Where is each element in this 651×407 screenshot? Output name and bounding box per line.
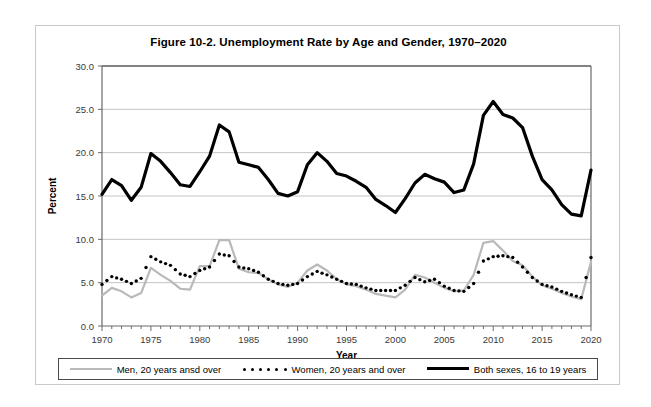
data-point <box>399 286 402 289</box>
data-point <box>335 278 338 281</box>
x-axis-tick-label: 2015 <box>532 334 553 345</box>
data-point <box>418 278 421 281</box>
data-point <box>462 290 465 293</box>
data-point <box>438 281 441 284</box>
data-point <box>536 279 539 282</box>
data-point <box>306 275 309 278</box>
x-axis-tick-label: 1990 <box>287 334 308 345</box>
data-point <box>496 255 499 258</box>
data-point <box>320 271 323 274</box>
data-point <box>403 284 406 287</box>
data-point <box>575 294 578 297</box>
legend-item-label: Women, 20 years and over <box>292 364 406 375</box>
data-point <box>169 264 172 267</box>
y-axis-tick-label: 10.0 <box>76 234 95 245</box>
data-point <box>472 282 475 285</box>
data-point <box>203 267 206 270</box>
data-point <box>213 259 216 262</box>
data-point <box>369 287 372 290</box>
data-point <box>492 255 495 258</box>
data-point <box>174 268 177 271</box>
data-point <box>105 279 108 282</box>
data-point <box>286 284 289 287</box>
data-point <box>125 280 128 283</box>
y-axis-tick-label: 0.0 <box>81 321 94 332</box>
data-point <box>183 274 186 277</box>
data-point <box>149 255 152 258</box>
data-point <box>423 280 426 283</box>
data-point <box>198 269 201 272</box>
chart-plot: 0.05.010.015.020.025.030.019701975198019… <box>36 26 621 386</box>
data-point <box>408 280 411 283</box>
y-axis-tick-label: 15.0 <box>76 191 95 202</box>
data-point <box>487 257 490 260</box>
legend-item: Women, 20 years and over <box>243 364 406 375</box>
x-axis-tick-label: 2010 <box>483 334 504 345</box>
data-point <box>482 259 485 262</box>
x-axis-tick-label: 1970 <box>91 334 112 345</box>
data-point <box>232 260 235 263</box>
y-axis-tick-label: 20.0 <box>76 147 95 158</box>
data-point <box>355 283 358 286</box>
data-point <box>276 282 279 285</box>
x-axis-tick-label: 2020 <box>580 334 601 345</box>
data-point <box>447 287 450 290</box>
figure-frame: Figure 10-2. Unemployment Rate by Age an… <box>35 25 620 385</box>
legend-item: Both sexes, 16 to 19 years <box>427 364 586 375</box>
data-point <box>506 255 509 258</box>
data-point <box>589 256 592 259</box>
data-point <box>531 276 534 279</box>
legend-item: Men, 20 years ansd over <box>70 364 222 375</box>
data-point <box>467 286 470 289</box>
data-point <box>325 273 328 276</box>
x-axis-tick-label: 1985 <box>238 334 259 345</box>
data-point <box>384 289 387 292</box>
data-point <box>374 289 377 292</box>
data-point <box>389 289 392 292</box>
data-point <box>115 276 118 279</box>
data-point <box>242 266 245 269</box>
data-point <box>164 262 167 265</box>
legend-swatch-dotted-black-icon <box>243 364 287 374</box>
data-point <box>154 258 157 261</box>
data-point <box>477 271 480 274</box>
data-point <box>501 254 504 257</box>
data-point <box>580 296 583 299</box>
data-point <box>252 269 255 272</box>
data-point <box>521 265 524 268</box>
legend-swatch-solid-gray-icon <box>70 364 112 374</box>
data-point <box>218 252 221 255</box>
data-point <box>296 282 299 285</box>
legend-item-label: Both sexes, 16 to 19 years <box>474 364 586 375</box>
data-point <box>223 253 226 256</box>
data-point <box>291 283 294 286</box>
x-axis-tick-label: 1995 <box>336 334 357 345</box>
data-point <box>540 283 543 286</box>
data-point <box>433 278 436 281</box>
data-point <box>350 282 353 285</box>
data-point <box>301 278 304 281</box>
x-axis-tick-label: 1975 <box>140 334 161 345</box>
data-point <box>560 290 563 293</box>
x-axis-tick-label: 2005 <box>434 334 455 345</box>
x-axis-tick-label: 1980 <box>189 334 210 345</box>
data-point <box>188 275 191 278</box>
data-point <box>271 280 274 283</box>
data-point <box>443 284 446 287</box>
data-point <box>159 260 162 263</box>
data-point <box>257 271 260 274</box>
legend-item-label: Men, 20 years ansd over <box>117 364 222 375</box>
data-point <box>135 279 138 282</box>
data-point <box>262 274 265 277</box>
data-point <box>516 261 519 264</box>
data-point <box>315 270 318 273</box>
data-point <box>379 289 382 292</box>
data-point <box>120 278 123 281</box>
y-axis-tick-label: 30.0 <box>76 61 95 72</box>
data-point <box>545 284 548 287</box>
data-point <box>345 282 348 285</box>
y-axis-title: Percent <box>47 177 58 214</box>
data-point <box>457 289 460 292</box>
data-point <box>452 289 455 292</box>
data-point <box>526 271 529 274</box>
